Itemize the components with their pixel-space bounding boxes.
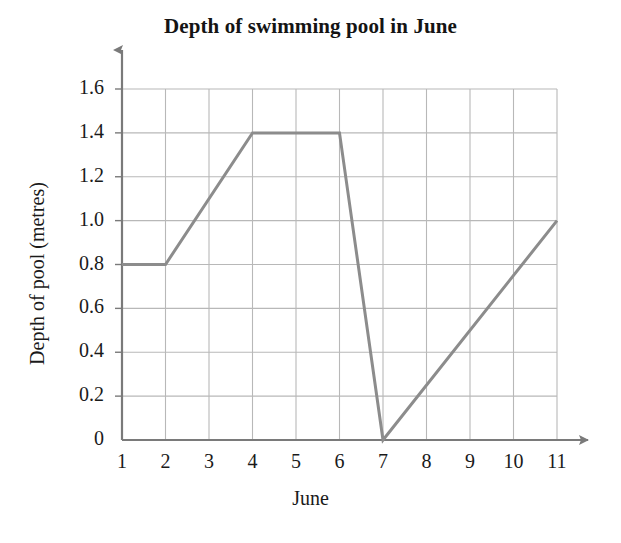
x-tick-label: 3 xyxy=(189,450,229,473)
x-tick-label: 4 xyxy=(233,450,273,473)
x-tick-label: 5 xyxy=(276,450,316,473)
x-tick-label: 1 xyxy=(102,450,142,473)
y-tick-label: 0.4 xyxy=(44,339,104,362)
x-tick-label: 9 xyxy=(450,450,490,473)
x-tick-label: 11 xyxy=(537,450,577,473)
x-tick-label: 7 xyxy=(363,450,403,473)
y-tick-label: 1.6 xyxy=(44,76,104,99)
y-tick-label: 1.4 xyxy=(44,120,104,143)
y-tick-label: 1.2 xyxy=(44,164,104,187)
x-tick-label: 8 xyxy=(407,450,447,473)
chart-container: Depth of swimming pool in June Depth of … xyxy=(0,0,621,543)
y-tick-label: 0.8 xyxy=(44,252,104,275)
y-tick-label: 1.0 xyxy=(44,208,104,231)
x-tick-label: 10 xyxy=(494,450,534,473)
y-tick-label: 0.2 xyxy=(44,383,104,406)
x-tick-label: 6 xyxy=(320,450,360,473)
y-tick-label: 0.6 xyxy=(44,295,104,318)
x-tick-label: 2 xyxy=(146,450,186,473)
y-tick-label: 0 xyxy=(44,427,104,450)
